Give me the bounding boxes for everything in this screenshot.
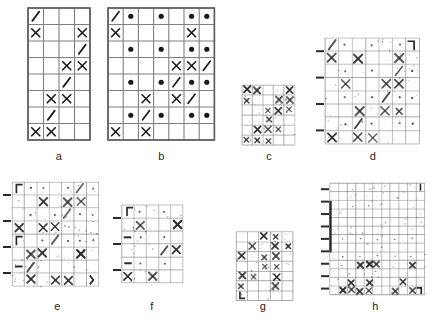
panel-label-a: a	[28, 150, 90, 162]
cell-mark-dot	[189, 47, 194, 52]
cell-mark-x	[63, 95, 71, 103]
panel-b	[108, 8, 214, 140]
cell-mark-x	[342, 80, 350, 88]
cell-mark-x	[244, 86, 250, 92]
cell-mark-x	[266, 139, 271, 144]
cell-mark-slash	[188, 94, 195, 103]
cell-mark-x	[173, 246, 181, 254]
panel-d-gridlines	[325, 38, 420, 144]
cell-mark-dot	[204, 14, 209, 19]
panel-d	[316, 38, 420, 144]
cell-mark-x	[188, 62, 196, 70]
panel-h-gridlines	[330, 183, 425, 295]
cell-mark-dot	[359, 256, 360, 257]
cell-mark-dot	[163, 211, 165, 213]
cell-mark-dot	[41, 240, 43, 242]
cell-mark-x	[239, 272, 245, 278]
cell-mark-dot	[42, 187, 44, 189]
cell-mark-dot	[128, 47, 133, 52]
panel-e	[3, 182, 99, 288]
cell-mark-x	[328, 54, 336, 62]
cell-mark-x	[65, 277, 73, 285]
cell-mark-x	[349, 280, 354, 285]
cell-mark-x	[27, 250, 35, 258]
cell-mark-dot	[412, 123, 414, 125]
cell-mark-dot	[344, 123, 346, 125]
cell-mark-x	[112, 29, 120, 37]
cell-mark-x	[396, 108, 402, 114]
panel-e-gridlines	[12, 182, 99, 286]
cell-mark-bracket	[240, 292, 244, 298]
cell-mark-dot	[92, 188, 94, 190]
cell-mark-x	[255, 138, 260, 143]
cell-mark-bracket	[90, 276, 93, 284]
cell-mark-x	[77, 198, 85, 206]
cell-mark-x	[274, 274, 280, 280]
cell-mark-slash	[203, 61, 210, 70]
cell-mark-dot	[128, 80, 133, 85]
cell-mark-slash	[173, 78, 180, 87]
cell-mark-dot	[398, 122, 400, 124]
cell-mark-dot	[79, 213, 81, 215]
cell-mark-x	[251, 274, 255, 278]
cell-mark-dot	[399, 44, 401, 46]
cell-mark-bracket	[408, 41, 414, 49]
cell-mark-slash	[395, 66, 402, 75]
cell-mark-dot	[189, 113, 194, 118]
cell-mark-x	[47, 128, 55, 136]
cell-mark-x	[366, 288, 371, 293]
cell-mark-bracket	[418, 288, 422, 293]
cell-mark-bracket	[16, 185, 21, 193]
cell-mark-slash	[52, 235, 59, 244]
cell-mark-x	[149, 272, 157, 280]
panel-f-gridlines	[122, 205, 183, 283]
cell-mark-x	[400, 279, 405, 284]
cell-mark-x	[367, 262, 372, 267]
cell-mark-slash	[161, 246, 167, 255]
panel-label-e: e	[5, 300, 110, 312]
figure-canvas	[0, 0, 436, 327]
panel-b-gridlines	[108, 8, 214, 140]
cell-mark-x	[239, 253, 245, 259]
cell-mark-x	[172, 95, 180, 103]
cell-mark-x	[273, 253, 279, 259]
cell-mark-x	[32, 128, 40, 136]
cell-mark-x	[38, 249, 46, 257]
cell-mark-x	[272, 283, 278, 289]
cell-mark-x	[381, 107, 389, 115]
cell-mark-x	[287, 107, 292, 112]
cell-mark-dot	[189, 80, 194, 85]
panel-label-c: c	[238, 150, 300, 162]
cell-mark-x	[52, 276, 60, 284]
cell-mark-x	[142, 95, 150, 103]
cell-mark-x	[254, 87, 260, 93]
cell-mark-dot	[370, 44, 372, 46]
cell-mark-x	[382, 80, 390, 88]
panel-e-left-ticks	[3, 195, 11, 273]
cell-mark-x	[272, 243, 278, 249]
cell-mark-dot	[343, 44, 345, 46]
cell-mark-x	[340, 287, 345, 292]
cell-mark-x	[354, 55, 362, 63]
cell-mark-slash	[143, 111, 150, 120]
cell-mark-dot	[159, 113, 164, 118]
cell-mark-x	[357, 289, 362, 294]
panel-label-f: f	[112, 300, 192, 312]
panel-a-gridlines	[28, 8, 90, 140]
figure-panels: abcdefgh	[0, 0, 436, 327]
cell-mark-dot	[163, 236, 165, 238]
cell-mark-dot	[159, 47, 164, 52]
cell-mark-x	[266, 108, 271, 113]
cell-mark-dot	[370, 122, 372, 124]
cell-mark-x	[172, 62, 180, 70]
cell-mark-slash	[383, 93, 390, 102]
cell-mark-x	[369, 134, 377, 142]
cell-mark-dot	[79, 240, 81, 242]
cell-mark-x	[174, 221, 182, 229]
cell-mark-x	[78, 62, 86, 70]
cell-mark-x	[395, 54, 403, 62]
cell-mark-bracket	[16, 237, 21, 245]
cell-mark-slash	[63, 78, 70, 87]
cell-mark-dot	[377, 239, 378, 240]
panel-label-b: b	[108, 150, 215, 162]
